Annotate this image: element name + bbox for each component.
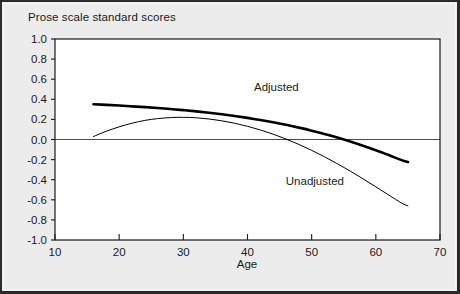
figure-panel: Prose scale standard scores 1.00.80.60.4… bbox=[0, 0, 460, 294]
x-tick-label: 30 bbox=[177, 246, 190, 258]
series-label-unadjusted: Unadjusted bbox=[286, 175, 344, 187]
x-tick-label: 20 bbox=[113, 246, 126, 258]
y-tick-label: -0.8 bbox=[27, 214, 47, 226]
x-tick-label: 10 bbox=[49, 246, 62, 258]
y-tick-label: -0.6 bbox=[27, 194, 47, 206]
y-tick-label: 0.2 bbox=[31, 113, 47, 125]
y-tick-label: 1.0 bbox=[31, 33, 47, 45]
y-tick-label: 0.6 bbox=[31, 73, 47, 85]
y-tick-label: 0.8 bbox=[31, 53, 47, 65]
series-label-adjusted: Adjusted bbox=[254, 81, 299, 93]
x-tick-label: 70 bbox=[434, 246, 447, 258]
x-tick-label: 50 bbox=[305, 246, 318, 258]
y-tick-label: 0.0 bbox=[31, 134, 47, 146]
y-tick-label: -1.0 bbox=[27, 234, 47, 246]
y-axis-ticks: 1.00.80.60.40.20.0-0.2-0.4-0.6-0.8-1.0 bbox=[27, 33, 55, 246]
x-axis-title: Age bbox=[237, 258, 257, 270]
y-tick-label: -0.4 bbox=[27, 174, 47, 186]
x-tick-label: 40 bbox=[241, 246, 254, 258]
line-chart: 1.00.80.60.40.20.0-0.2-0.4-0.6-0.8-1.0 1… bbox=[2, 2, 460, 294]
y-tick-label: -0.2 bbox=[27, 154, 47, 166]
y-tick-label: 0.4 bbox=[31, 93, 48, 105]
x-tick-label: 60 bbox=[369, 246, 382, 258]
